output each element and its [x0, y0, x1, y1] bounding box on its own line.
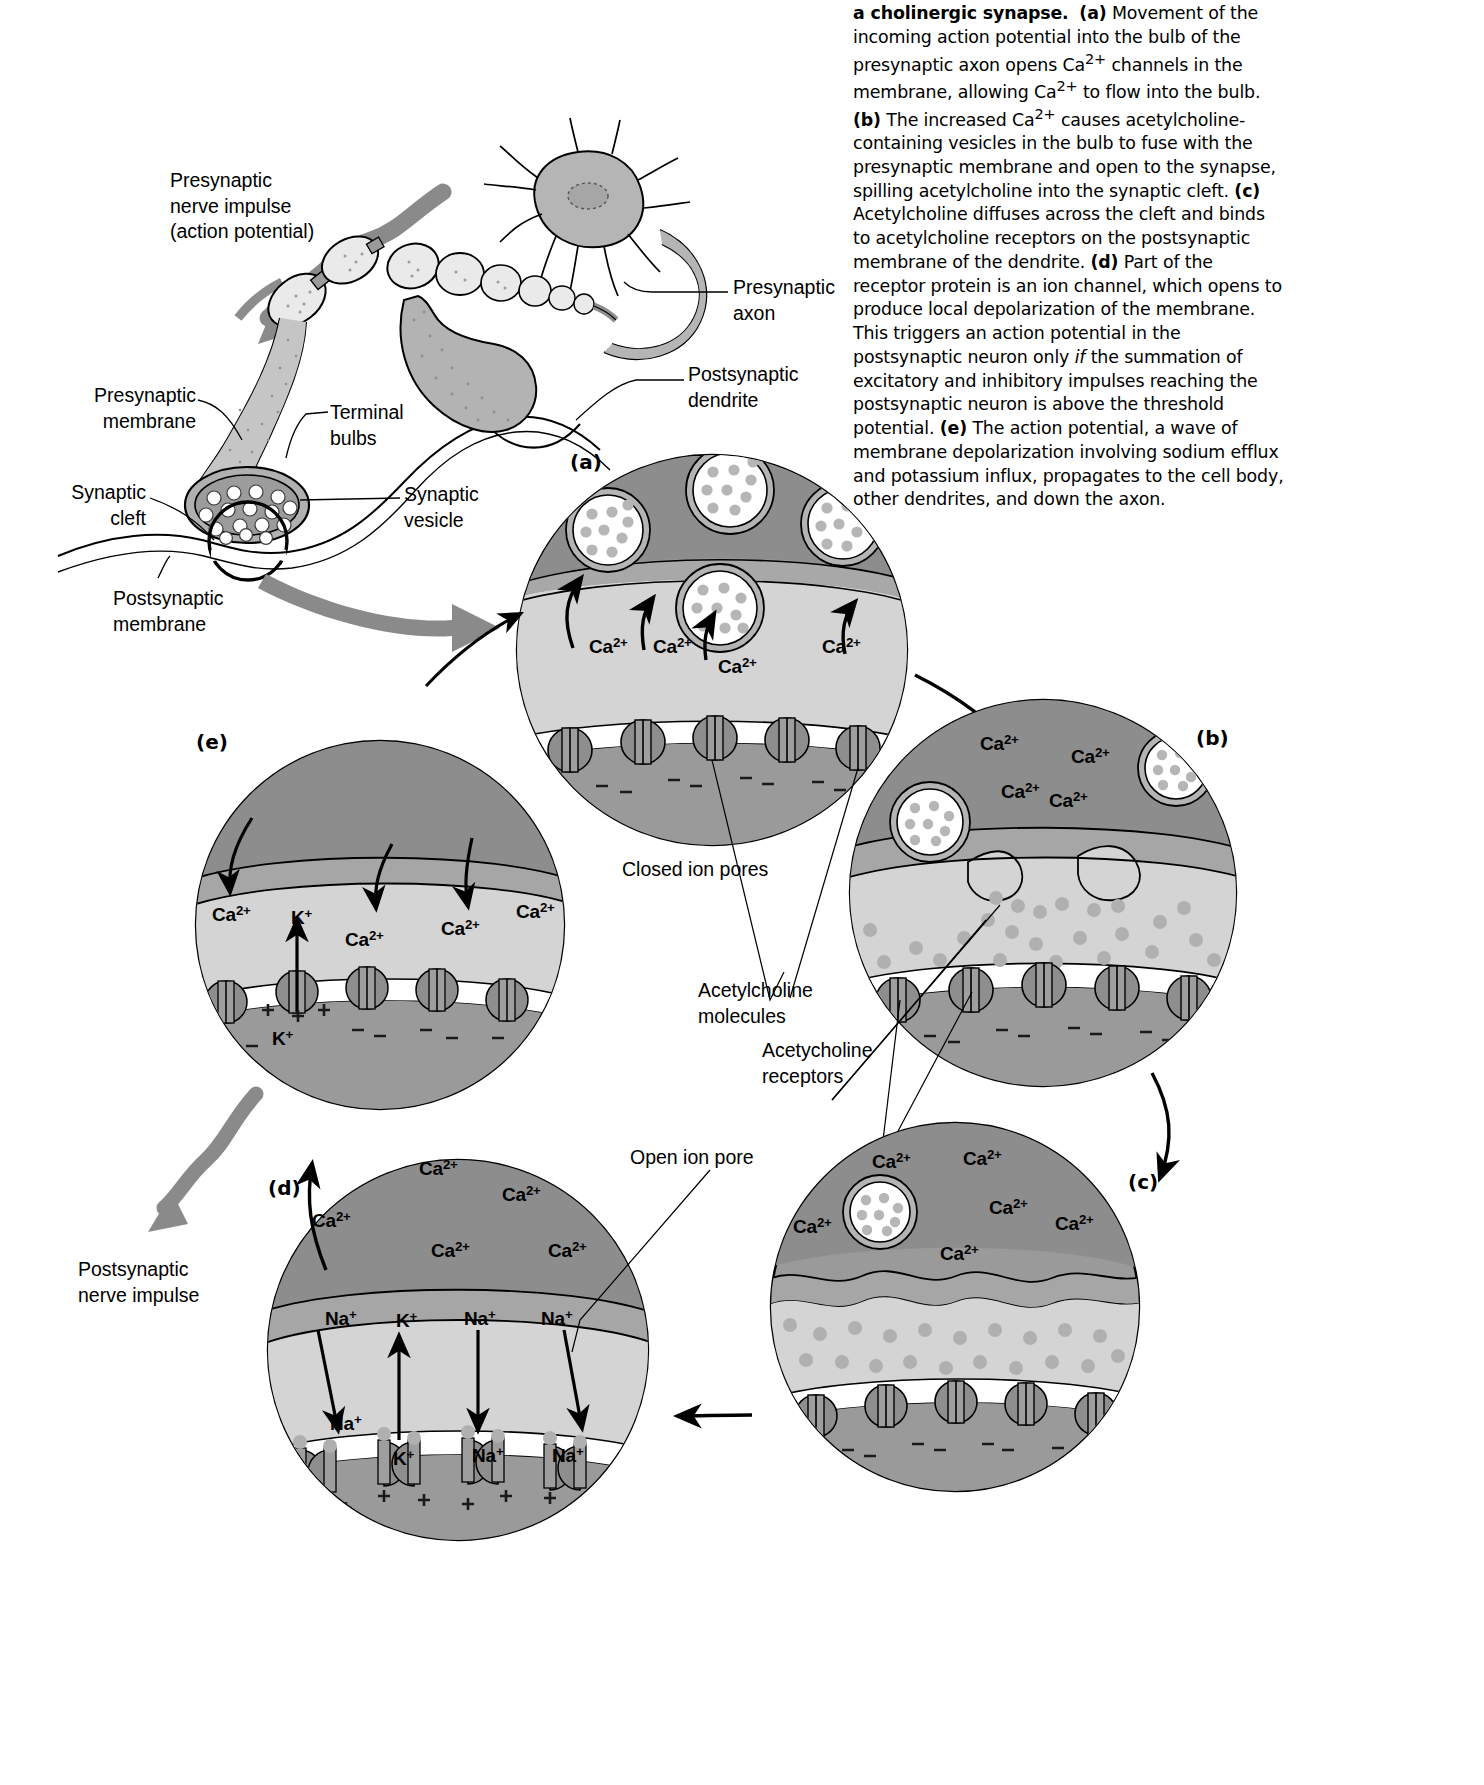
panel-letter-c: (c) [1128, 1170, 1158, 1194]
ion-label-ca-panel-d: Ca2+ [419, 1157, 458, 1180]
ion-label-na-panel-d: Na+ [464, 1307, 495, 1330]
ion-label-ca-panel-b: Ca2+ [1071, 745, 1110, 768]
panel-letter-b: (b) [1196, 726, 1229, 750]
label-postsynaptic-dendrite: Postsynaptic dendrite [688, 362, 799, 413]
synaptic-vesicle [566, 488, 650, 572]
ion-label-ca-panel-d: Ca2+ [502, 1183, 541, 1206]
figure-page: a cholinergic synapse. (a) Movement of t… [0, 0, 1484, 1785]
ion-label-ca-panel-a: Ca2+ [718, 655, 757, 678]
label-presynaptic-membrane: Presynaptic membrane [48, 383, 196, 434]
label-acetylcholine-molecules: Acetylcholine molecules [698, 978, 813, 1029]
ion-label-ca-panel-b: Ca2+ [980, 732, 1019, 755]
panel-letter-e: (e) [196, 730, 228, 754]
label-presynaptic-nerve-impulse: Presynaptic nerve impulse (action potent… [170, 168, 314, 245]
ion-label-ca-panel-a: Ca2+ [589, 635, 628, 658]
label-synaptic-cleft: Synaptic cleft [18, 480, 146, 531]
label-postsynaptic-nerve-impulse: Postsynaptic nerve impulse [78, 1257, 199, 1308]
label-acetylcholine-receptors: Acetycholine receptors [762, 1038, 873, 1089]
ion-label-ca-panel-c: Ca2+ [940, 1242, 979, 1265]
panel-letter-d: (d) [268, 1176, 301, 1200]
label-postsynaptic-membrane: Postsynaptic membrane [113, 586, 224, 637]
ion-label-k-panel-e: K+ [291, 906, 312, 929]
ion-label-na-panel-d: Na+ [472, 1444, 503, 1467]
ion-label-k-panel-d: K+ [396, 1309, 417, 1332]
ion-label-na-panel-d: Na+ [541, 1307, 572, 1330]
ion-label-ca-panel-c: Ca2+ [793, 1215, 832, 1238]
synaptic-vesicle [890, 782, 970, 862]
ion-label-ca-panel-a: Ca2+ [822, 635, 861, 658]
ion-label-ca-panel-e: Ca2+ [441, 917, 480, 940]
label-synaptic-vesicle: Synaptic vesicle [404, 482, 479, 533]
panel-letter-a: (a) [570, 450, 602, 474]
ion-label-k-panel-e: K+ [272, 1027, 293, 1050]
ion-label-na-panel-d: Na+ [552, 1444, 583, 1467]
ion-label-na-panel-d: Na+ [330, 1412, 361, 1435]
ion-label-ca-panel-a: Ca2+ [653, 635, 692, 658]
panel-c-circle [760, 1110, 1152, 1500]
ion-label-k-panel-d: K+ [393, 1447, 414, 1470]
ion-label-ca-panel-d: Ca2+ [431, 1239, 470, 1262]
label-presynaptic-axon: Presynaptic axon [733, 275, 835, 326]
ion-label-ca-panel-d: Ca2+ [312, 1209, 351, 1232]
label-terminal-bulbs: Terminal bulbs [330, 400, 404, 451]
ion-label-ca-panel-c: Ca2+ [989, 1196, 1028, 1219]
panel-b-circle [840, 690, 1250, 1100]
ion-label-ca-panel-c: Ca2+ [963, 1147, 1002, 1170]
ion-label-ca-panel-e: Ca2+ [345, 928, 384, 951]
label-closed-ion-pores: Closed ion pores [622, 857, 768, 883]
label-open-ion-pore: Open ion pore [630, 1145, 754, 1171]
synaptic-vesicle [686, 446, 774, 534]
ion-label-ca-panel-d: Ca2+ [548, 1239, 587, 1262]
ion-label-ca-panel-e: Ca2+ [516, 900, 555, 923]
ion-label-na-panel-d: Na+ [325, 1307, 356, 1330]
ion-label-ca-panel-c: Ca2+ [872, 1150, 911, 1173]
ion-label-ca-panel-e: Ca2+ [212, 903, 251, 926]
ion-label-ca-panel-b: Ca2+ [1049, 789, 1088, 812]
ion-label-ca-panel-c: Ca2+ [1055, 1212, 1094, 1235]
ion-label-ca-panel-b: Ca2+ [1001, 780, 1040, 803]
figure-caption: a cholinergic synapse. (a) Movement of t… [853, 2, 1285, 512]
synaptic-vesicle [843, 1175, 917, 1249]
